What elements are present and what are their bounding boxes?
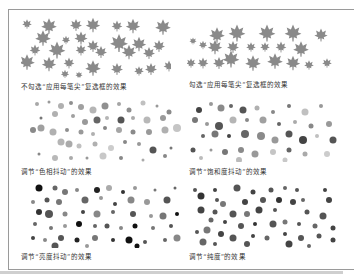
panel-leaf-checked	[187, 23, 335, 75]
panel-leaf-unchecked	[21, 16, 171, 78]
maple-leaf-pattern-image	[21, 16, 171, 78]
figure-frame: 不勾选“应用每笔尖”复选框的效果	[8, 9, 354, 270]
panel-brightness-jitter	[25, 184, 183, 248]
caption-leaf-unchecked: 不勾选“应用每笔尖”复选框的效果	[21, 81, 127, 91]
saturation-jitter-dots-image	[189, 98, 339, 162]
figure-grid: 不勾选“应用每笔尖”复选框的效果	[19, 12, 344, 265]
panel-purity	[189, 184, 339, 248]
bottom-divider	[0, 271, 343, 274]
caption-purity: 调节“纯度”的效果	[189, 251, 246, 261]
maple-leaf-pattern-image	[187, 23, 335, 75]
panel-saturation-jitter	[189, 98, 339, 162]
caption-brightness-jitter: 调节“亮度抖动”的效果	[21, 251, 92, 261]
purity-dots-image	[189, 184, 339, 248]
panel-hue-jitter	[25, 98, 183, 162]
caption-hue-jitter: 调节“色相抖动”的效果	[21, 166, 92, 176]
caption-leaf-checked: 勾选“应用每笔尖”复选框的效果	[189, 79, 288, 89]
hue-jitter-dots-image	[25, 98, 183, 162]
caption-saturation-jitter: 调节“饱和度抖动”的效果	[189, 166, 267, 176]
brightness-jitter-dots-image	[25, 184, 183, 248]
